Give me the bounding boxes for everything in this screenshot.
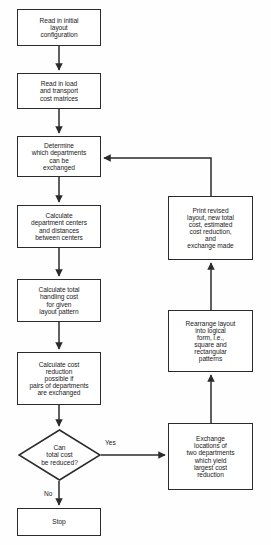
node-exchange-locations: Exchange locations of two departments wh…	[168, 423, 253, 490]
node-label: Calculate total handling cost for given …	[38, 286, 79, 314]
node-label: Rearrange layout into logical form, i.e.…	[186, 320, 236, 362]
node-calculate-handling-cost: Calculate total handling cost for given …	[17, 279, 101, 322]
node-calculate-centers: Calculate department centers and distanc…	[17, 205, 101, 248]
node-label: Determine which departments can be excha…	[32, 142, 87, 170]
node-label: Calculate cost reduction possible if pai…	[29, 361, 88, 396]
node-label: Read in initial layout configuration	[40, 17, 79, 38]
node-label: Read in load and transport cost matrices	[40, 80, 78, 101]
node-calculate-cost-reduction: Calculate cost reduction possible if pai…	[17, 352, 101, 405]
connector-print-to-determine	[104, 158, 211, 196]
node-print-revised-layout: Print revised layout, new total cost, es…	[168, 196, 253, 260]
node-can-total-cost-be-reduced: Can total cost be reduced?	[18, 429, 101, 481]
flowchart-canvas: Read in initial layout configuration Rea…	[0, 0, 271, 545]
node-label: Exchange locations of two departments wh…	[187, 435, 235, 477]
edge-label-yes: Yes	[105, 440, 116, 447]
node-rearrange-layout: Rearrange layout into logical form, i.e.…	[168, 310, 253, 372]
node-label: Stop	[52, 518, 65, 525]
node-read-load-transport: Read in load and transport cost matrices	[17, 73, 101, 109]
edge-label-no: No	[44, 491, 52, 498]
node-stop: Stop	[17, 508, 101, 536]
node-read-initial-layout: Read in initial layout configuration	[17, 9, 101, 46]
node-determine-departments: Determine which departments can be excha…	[17, 136, 101, 177]
node-label: Print revised layout, new total cost, es…	[187, 207, 234, 249]
node-label: Can total cost be reduced?	[41, 444, 78, 465]
node-label: Calculate department centers and distanc…	[31, 212, 87, 240]
